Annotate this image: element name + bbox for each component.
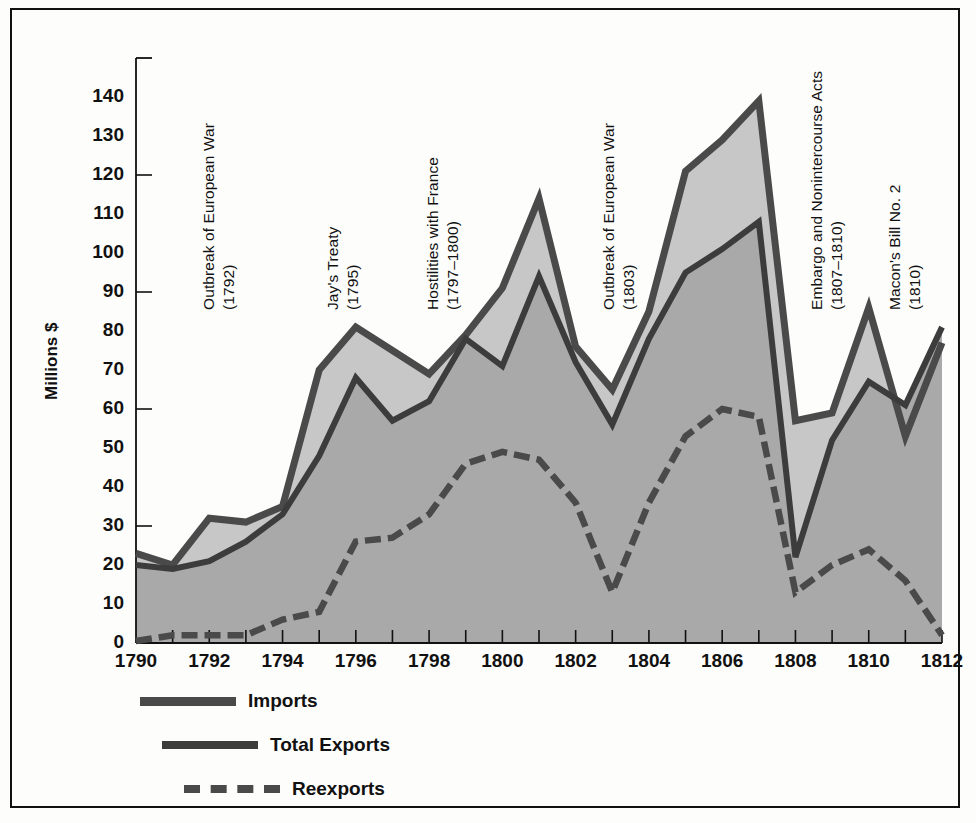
legend-label-reexports: Reexports xyxy=(292,778,385,800)
legend-label-imports: Imports xyxy=(248,690,318,712)
reexports-line-key xyxy=(184,785,280,793)
legend-item-imports: Imports xyxy=(140,690,390,712)
chart-page: Millions $ 01020304050607080901001101201… xyxy=(0,0,976,823)
area-bands xyxy=(136,101,942,643)
legend-item-reexports: Reexports xyxy=(184,778,390,800)
imports-line-key xyxy=(140,697,236,706)
total-exports-line-key xyxy=(162,741,258,749)
legend-item-total-exports: Total Exports xyxy=(162,734,390,756)
chart-legend: Imports Total Exports Reexports xyxy=(140,690,390,822)
legend-label-total-exports: Total Exports xyxy=(270,734,390,756)
